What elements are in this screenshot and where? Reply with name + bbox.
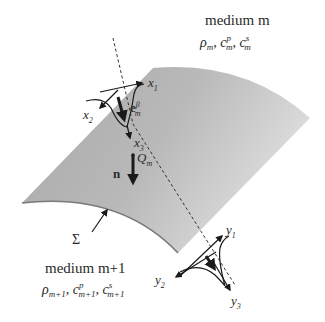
- rho-sub: m: [207, 42, 214, 52]
- y2-label: y2: [155, 272, 165, 290]
- cs-sub: m+1: [107, 289, 124, 299]
- normal-label: n: [113, 166, 120, 182]
- lower-medium-title: medium m+1: [45, 260, 126, 277]
- transmitted-polarization-arrow: [206, 256, 214, 268]
- interface-surface: [22, 67, 310, 253]
- x1-sub: 1: [154, 84, 158, 93]
- polarization-sub: m: [135, 109, 141, 118]
- rho-symbol: ρ: [200, 35, 207, 50]
- y3-label: y3: [231, 293, 241, 311]
- upper-medium-params: ρm, cpm, csm: [200, 33, 251, 52]
- cp-sub: m+1: [79, 289, 96, 299]
- y1-sub: 1: [232, 231, 236, 240]
- slowness-curve-lower: [180, 236, 229, 286]
- sigma-pointer-arrow: [92, 210, 107, 232]
- y2-sub: 2: [161, 281, 165, 290]
- x1-label: x1: [148, 75, 158, 93]
- point-q-label: Qm: [137, 150, 152, 168]
- polarization-sup: β: [136, 100, 140, 109]
- cs-sub: m: [244, 42, 251, 52]
- x2-label: x2: [83, 107, 93, 125]
- x2-sub: 2: [89, 116, 93, 125]
- y3-sub: 3: [237, 302, 241, 311]
- rho-sub: m+1: [49, 289, 66, 299]
- upper-medium-title: medium m: [205, 12, 270, 29]
- q-base: Q: [137, 150, 146, 165]
- rho-symbol: ρ: [42, 282, 49, 297]
- cp-sub: m: [226, 42, 233, 52]
- polarization-label: eβm: [130, 100, 141, 118]
- y1-label: y1: [226, 222, 236, 240]
- lower-medium-params: ρm+1, cpm+1, csm+1: [42, 280, 124, 299]
- q-sub: m: [146, 159, 152, 168]
- sigma-label: Σ: [72, 232, 80, 248]
